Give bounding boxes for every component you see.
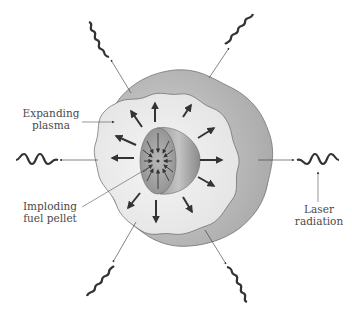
label-laser-line1: Laser <box>290 203 348 215</box>
laser-beam-bottom-left <box>87 222 136 296</box>
label-expanding-plasma: Expanding plasma <box>20 107 82 131</box>
label-expanding-plasma-line2: plasma <box>20 119 82 131</box>
laser-beam-left <box>16 154 98 164</box>
laser-beam-top-left <box>89 22 131 93</box>
label-laser-line2: radiation <box>290 215 348 227</box>
label-expanding-plasma-line1: Expanding <box>20 107 82 119</box>
laser-beam-top-right <box>209 14 253 78</box>
label-imploding-line1: Imploding <box>18 200 82 212</box>
label-imploding-fuel-pellet: Imploding fuel pellet <box>18 200 82 224</box>
fusion-diagram <box>0 0 352 312</box>
label-imploding-line2: fuel pellet <box>18 212 82 224</box>
label-laser-radiation: Laser radiation <box>290 203 348 227</box>
